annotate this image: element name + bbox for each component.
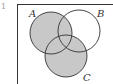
venn-diagram: 1 A B C	[0, 0, 113, 84]
corner-mark: 1	[1, 2, 6, 11]
label-b: B	[96, 8, 104, 19]
label-c: C	[83, 72, 91, 83]
label-a: A	[28, 8, 36, 19]
